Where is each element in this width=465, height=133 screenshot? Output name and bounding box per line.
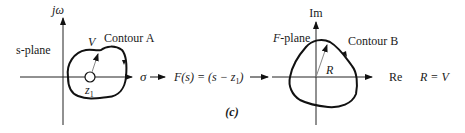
- jw-axis-label: jω: [50, 3, 64, 17]
- f-plane-label: F-plane: [272, 31, 310, 45]
- vector-v: [92, 54, 98, 72]
- z1-label: z1: [84, 83, 94, 99]
- contour-a: [68, 47, 127, 99]
- contour-mapping-diagram: jω σ s-plane V Contour A z1 F(s) = (s − …: [0, 0, 465, 133]
- vector-v-label: V: [88, 35, 97, 49]
- r-equals-v: R = V: [419, 70, 450, 84]
- vector-r-label: R: [325, 63, 334, 77]
- mapping: F(s) = (s − z1) (c): [150, 70, 268, 119]
- s-plane: jω σ s-plane V Contour A z1: [16, 3, 155, 125]
- sigma-label: σ: [140, 69, 147, 84]
- contour-b-label: Contour B: [348, 34, 398, 48]
- zero-z1-marker: [85, 72, 95, 82]
- caption: (c): [225, 105, 238, 119]
- f-plane: Im Re F-plane R Contour B R = V: [272, 6, 450, 125]
- s-plane-label: s-plane: [16, 43, 51, 57]
- re-label: Re: [389, 70, 402, 84]
- mapping-function: F(s) = (s − z1): [173, 70, 244, 86]
- contour-b: [289, 40, 356, 107]
- f-plane-label-rest: -plane: [280, 31, 310, 45]
- im-axis-label: Im: [309, 6, 323, 20]
- contour-a-label: Contour A: [104, 31, 155, 45]
